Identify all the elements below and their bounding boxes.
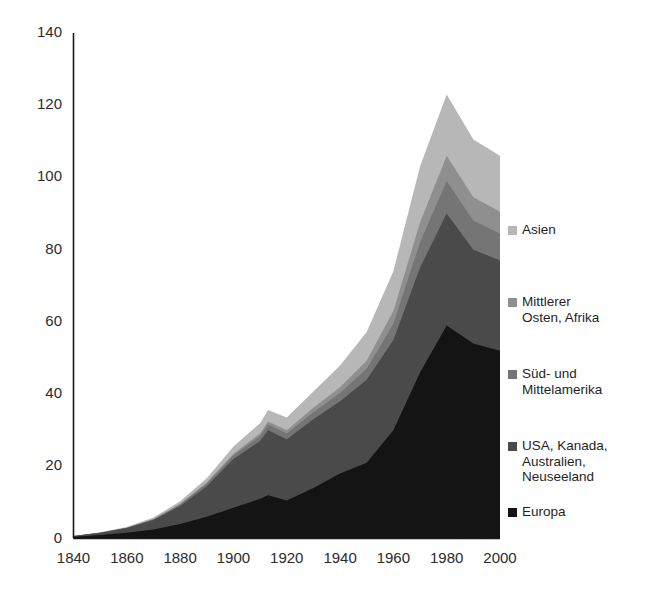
- legend-item: Europa: [508, 504, 566, 520]
- legend-label: Asien: [522, 222, 556, 238]
- x-tick-label: 1960: [363, 549, 423, 566]
- legend-item: Süd- und Mittelamerika: [508, 366, 602, 397]
- legend-item: USA, Kanada, Australien, Neuseeland: [508, 438, 608, 485]
- y-tick-label: 60: [14, 312, 62, 329]
- y-tick-label: 100: [14, 167, 62, 184]
- x-tick-label: 1940: [310, 549, 370, 566]
- x-tick-label: 1980: [417, 549, 477, 566]
- y-tick-label: 120: [14, 95, 62, 112]
- legend-label: USA, Kanada, Australien, Neuseeland: [522, 438, 608, 485]
- legend-swatch-icon: [508, 298, 517, 307]
- legend-swatch-icon: [508, 370, 517, 379]
- area-series-group: [74, 94, 501, 538]
- legend-swatch-icon: [508, 226, 517, 235]
- stacked-area-chart: 020406080100120140 184018601880190019201…: [0, 0, 670, 602]
- x-tick-label: 1840: [44, 549, 104, 566]
- legend-label: Süd- und Mittelamerika: [522, 366, 602, 397]
- legend-swatch-icon: [508, 442, 517, 451]
- y-tick-label: 140: [14, 23, 62, 40]
- legend-label: Europa: [522, 504, 566, 520]
- y-tick-label: 40: [14, 384, 62, 401]
- legend-item: Mittlerer Osten, Afrika: [508, 294, 599, 325]
- legend-label: Mittlerer Osten, Afrika: [522, 294, 599, 325]
- x-tick-label: 1860: [97, 549, 157, 566]
- x-tick-label: 2000: [470, 549, 530, 566]
- legend-swatch-icon: [508, 508, 517, 517]
- legend-item: Asien: [508, 222, 556, 238]
- y-tick-label: 0: [14, 529, 62, 546]
- x-tick-label: 1900: [203, 549, 263, 566]
- y-tick-label: 20: [14, 456, 62, 473]
- x-tick-label: 1920: [257, 549, 317, 566]
- x-tick-label: 1880: [150, 549, 210, 566]
- y-tick-label: 80: [14, 240, 62, 257]
